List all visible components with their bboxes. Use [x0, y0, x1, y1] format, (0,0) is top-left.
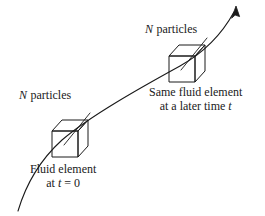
trajectory-arrowhead	[232, 6, 240, 18]
caption-later-element: Same fluid element at a later time t	[149, 85, 242, 113]
leader-line-initial	[64, 113, 90, 145]
caption-initial-element: Fluid element at t = 0	[30, 162, 96, 190]
leader-line-later	[181, 38, 207, 70]
caption-later-element-line1: Same fluid element	[149, 85, 242, 99]
label-n-particles-later-text: particles	[157, 22, 198, 36]
caption-later-element-line2-text: at a later time	[160, 99, 229, 113]
physics-figure-fluid-element: N particles N particles Same fluid eleme…	[0, 0, 265, 216]
caption-initial-element-line2-suffix: = 0	[61, 176, 80, 190]
fluid-element-cube-later	[169, 45, 205, 82]
label-n-particles-initial: N particles	[19, 88, 71, 102]
caption-initial-element-line2: at t = 0	[30, 176, 96, 190]
fluid-element-cube-initial	[52, 120, 88, 157]
symbol-t-later: t	[228, 99, 231, 113]
symbol-n-later: N	[145, 22, 154, 36]
caption-later-element-line2: at a later time t	[149, 99, 242, 113]
symbol-n-initial: N	[19, 88, 28, 102]
label-n-particles-later: N particles	[145, 22, 197, 36]
caption-initial-element-line1: Fluid element	[30, 162, 96, 176]
label-n-particles-initial-text: particles	[31, 88, 72, 102]
caption-initial-element-line2-prefix: at	[46, 176, 58, 190]
